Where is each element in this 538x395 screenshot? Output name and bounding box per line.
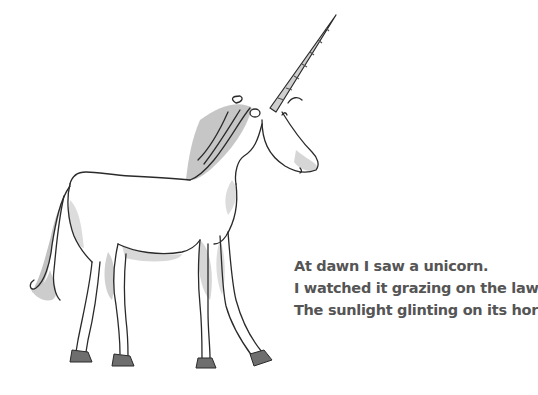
hooves xyxy=(70,350,272,368)
horn xyxy=(270,15,336,112)
watercolor-wash xyxy=(30,104,318,300)
poem: At dawn I saw a unicorn. I watched it gr… xyxy=(294,255,538,321)
poem-line-1: At dawn I saw a unicorn. xyxy=(294,255,538,277)
illustration-page: At dawn I saw a unicorn. I watched it gr… xyxy=(0,0,538,395)
unicorn-illustration xyxy=(0,0,538,395)
poem-line-2: I watched it grazing on the lawn, xyxy=(294,277,538,299)
poem-line-3: The sunlight glinting on its horn. xyxy=(294,299,538,321)
